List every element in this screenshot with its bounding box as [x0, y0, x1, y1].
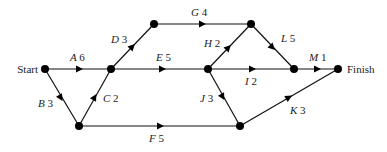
- label-e: E 5: [155, 51, 171, 63]
- arrow-f-icon: [157, 123, 164, 130]
- node: [204, 65, 212, 73]
- label-i: I 2: [244, 75, 257, 87]
- activity-network-diagram: Start Finish A 6 B 3 C 2 D 3 E 5 F 5 G 4…: [0, 0, 387, 152]
- arrow-g-icon: [199, 21, 206, 28]
- arrow-i-icon: [249, 66, 256, 73]
- node-start: [41, 65, 49, 73]
- node: [236, 122, 244, 130]
- label-b: B 3: [38, 97, 53, 109]
- node: [107, 65, 115, 73]
- label-j: J 3: [200, 92, 214, 104]
- arrow-a-icon: [76, 66, 83, 73]
- arrow-k-icon: [284, 92, 294, 102]
- node-finish: [334, 65, 342, 73]
- node: [75, 122, 83, 130]
- node: [150, 20, 158, 28]
- label-d: D 3: [110, 33, 128, 45]
- label-m: M 1: [308, 51, 326, 63]
- label-l: L 5: [280, 32, 296, 44]
- arrow-m-icon: [314, 66, 321, 73]
- arrow-l-icon: [267, 43, 277, 53]
- label-h: H 2: [203, 37, 220, 49]
- node: [247, 20, 255, 28]
- label-a: A 6: [69, 51, 85, 63]
- label-c: C 2: [103, 92, 119, 104]
- label-g: G 4: [191, 6, 208, 18]
- arrow-c-icon: [90, 92, 100, 102]
- start-label: Start: [17, 63, 38, 75]
- label-k: K 3: [289, 104, 306, 116]
- finish-label: Finish: [347, 63, 375, 75]
- label-f: F 5: [148, 132, 164, 144]
- node: [290, 65, 298, 73]
- arrow-e-icon: [159, 66, 166, 73]
